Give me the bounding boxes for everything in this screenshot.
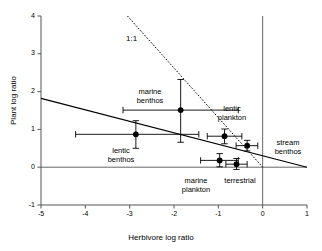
x-tick-label: -3 bbox=[120, 210, 140, 217]
x-tick-label: -4 bbox=[75, 210, 95, 217]
point-label-stream-benthos: streambenthos bbox=[248, 139, 322, 156]
point-label-lentic-plankton: lenticplankton bbox=[192, 105, 272, 122]
y-tick-label: 1 bbox=[21, 125, 35, 132]
point-label-terrestrial: terrestrial bbox=[200, 177, 280, 186]
data-point-lentic-benthos[interactable] bbox=[133, 131, 139, 137]
y-tick-label: -1 bbox=[21, 201, 35, 208]
y-tick-label: 0 bbox=[21, 163, 35, 170]
x-axis-label: Herbivore log ratio bbox=[0, 233, 322, 242]
x-tick-label: 0 bbox=[253, 210, 273, 217]
x-tick-label: 1 bbox=[297, 210, 317, 217]
point-label-lentic-benthos: lenticbenthos bbox=[81, 147, 161, 164]
scatter-plot-figure: Plant log ratio Herbivore log ratio -5-4… bbox=[0, 0, 322, 251]
data-point-marine-benthos[interactable] bbox=[178, 107, 184, 113]
x-tick-label: -1 bbox=[208, 210, 228, 217]
one-to-one-line-label: 1:1 bbox=[126, 34, 137, 43]
x-tick-label: -2 bbox=[164, 210, 184, 217]
y-tick-label: 3 bbox=[21, 49, 35, 56]
x-tick-label: -5 bbox=[31, 210, 51, 217]
data-point-terrestrial[interactable] bbox=[234, 161, 240, 167]
data-point-lentic-plankton[interactable] bbox=[222, 133, 228, 139]
data-point-marine-plankton[interactable] bbox=[217, 157, 223, 163]
y-tick-label: 2 bbox=[21, 87, 35, 94]
y-tick-label: 4 bbox=[21, 12, 35, 19]
y-axis-label: Plant log ratio bbox=[9, 66, 18, 136]
point-label-marine-benthos: marinebenthos bbox=[110, 88, 190, 105]
